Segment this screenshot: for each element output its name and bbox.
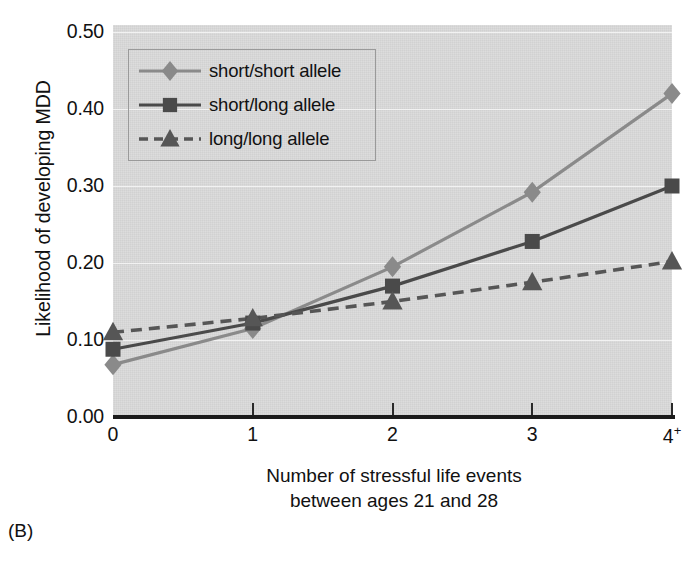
triangle-marker [522, 272, 542, 290]
square-marker [106, 342, 121, 357]
panel-label: (B) [8, 520, 33, 542]
legend-label: long/long allele [209, 128, 329, 150]
legend-marker-triangle-icon [137, 127, 203, 151]
legend-label: short/long allele [209, 94, 335, 116]
legend-item-0: short/short allele [129, 54, 375, 88]
triangle-marker [662, 251, 682, 269]
diamond-marker [524, 182, 541, 203]
square-marker [163, 98, 177, 112]
diamond-marker [663, 83, 680, 104]
figure-panel-b: 0.000.100.200.300.400.50 Likelihood of d… [0, 0, 696, 562]
legend-label: short/short allele [209, 60, 341, 82]
legend: short/short alleleshort/long allelelong/… [128, 49, 376, 161]
legend-marker-square-icon [137, 93, 203, 117]
diamond-marker [104, 354, 121, 375]
diamond-marker [384, 256, 401, 277]
square-marker [525, 234, 540, 249]
legend-item-2: long/long allele [129, 122, 375, 156]
legend-item-1: short/long allele [129, 88, 375, 122]
legend-marker-diamond-icon [137, 59, 203, 83]
square-marker [665, 179, 680, 194]
diamond-marker [162, 61, 178, 81]
